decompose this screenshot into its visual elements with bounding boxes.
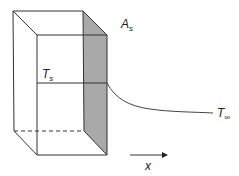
temperature-profile-curve (107, 83, 213, 113)
x-axis-arrow-head (162, 152, 168, 158)
surface-area-label: As (120, 17, 133, 33)
bottom-left-diagonal (14, 131, 37, 155)
x-axis-label: x (144, 159, 152, 173)
block-outline (13, 11, 213, 155)
back-left-edge (13, 11, 14, 131)
surface-temperature-label: Ts (42, 67, 53, 83)
top-left-diagonal (13, 11, 37, 35)
heat-transfer-diagram: As Ts T∞ x (0, 0, 239, 176)
ambient-temperature-label: T∞ (217, 106, 230, 122)
